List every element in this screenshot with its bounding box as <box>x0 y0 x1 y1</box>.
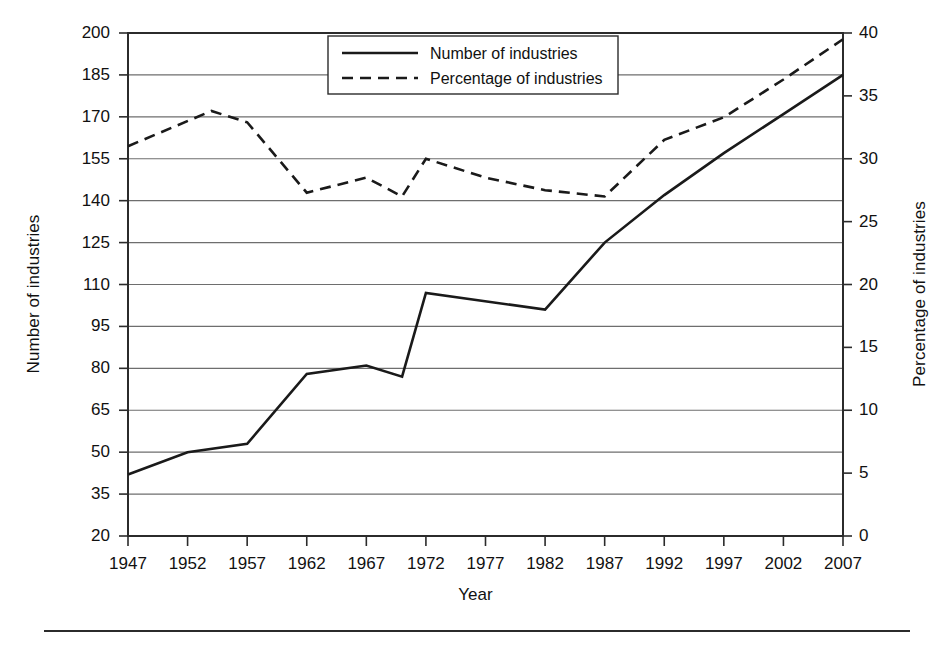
x-axis-tick-label: 1957 <box>228 554 266 574</box>
x-axis-tick-label: 1947 <box>109 554 147 574</box>
y-axis-left-tick-label: 170 <box>40 107 110 127</box>
y-axis-right-tick-label: 30 <box>859 149 909 169</box>
y-axis-right-tick-label: 10 <box>859 400 909 420</box>
y-axis-right-tick-label: 25 <box>859 212 909 232</box>
y-axis-left-tick-label: 95 <box>40 316 110 336</box>
x-axis-tick-label: 1992 <box>645 554 683 574</box>
x-axis-tick-label: 1972 <box>407 554 445 574</box>
y-axis-left-tick-label: 200 <box>40 23 110 43</box>
y-axis-left-tick-label: 50 <box>40 442 110 462</box>
legend-label: Number of industries <box>430 45 578 62</box>
y-axis-left-tick-label: 140 <box>40 191 110 211</box>
legend-label: Percentage of industries <box>430 70 603 87</box>
x-axis-tick-label: 1997 <box>705 554 743 574</box>
y-axis-right-tick-label: 40 <box>859 23 909 43</box>
figure-container: Number of industries Percentage of indus… <box>0 0 951 649</box>
x-axis-tick-label: 1977 <box>467 554 505 574</box>
y-axis-right-tick-label: 5 <box>859 463 909 483</box>
y-axis-left-tick-label: 110 <box>40 275 110 295</box>
y-axis-left-tick-label: 155 <box>40 149 110 169</box>
x-axis-tick-label: 1982 <box>526 554 564 574</box>
series-line-number-of-industries <box>128 75 843 475</box>
y-axis-left-tick-label: 125 <box>40 233 110 253</box>
y-axis-right-tick-label: 35 <box>859 86 909 106</box>
bottom-horizontal-rule <box>44 630 910 632</box>
data-series <box>128 39 843 474</box>
y-axis-left-tick-label: 35 <box>40 484 110 504</box>
line-chart: Number of industriesPercentage of indust… <box>0 0 951 649</box>
x-axis-tick-label: 2002 <box>764 554 802 574</box>
x-axis-tick-label: 1952 <box>169 554 207 574</box>
y-axis-left-tick-label: 65 <box>40 400 110 420</box>
axis-ticks <box>119 33 852 546</box>
y-axis-right-tick-label: 20 <box>859 275 909 295</box>
y-axis-right-tick-label: 0 <box>859 526 909 546</box>
legend: Number of industriesPercentage of indust… <box>328 36 618 94</box>
x-axis-tick-label: 1987 <box>586 554 624 574</box>
y-axis-left-tick-label: 185 <box>40 65 110 85</box>
x-axis-tick-label: 2007 <box>824 554 862 574</box>
y-axis-right-tick-label: 15 <box>859 337 909 357</box>
x-axis-tick-label: 1967 <box>347 554 385 574</box>
x-axis-tick-label: 1962 <box>288 554 326 574</box>
y-axis-left-tick-label: 80 <box>40 358 110 378</box>
gridlines <box>128 33 843 494</box>
y-axis-left-tick-label: 20 <box>40 526 110 546</box>
